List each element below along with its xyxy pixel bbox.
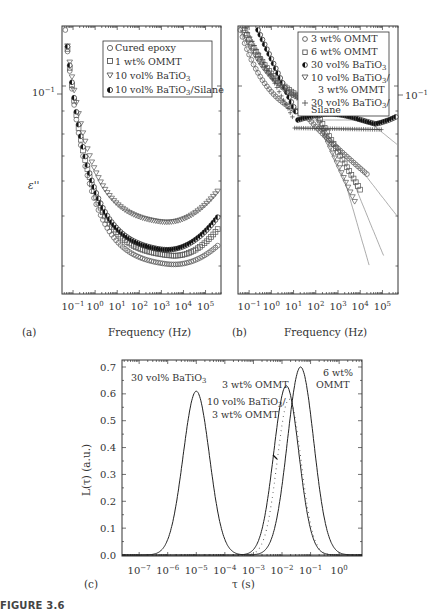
- legend-a-item-0: Cured epoxy: [115, 42, 176, 53]
- panel-a-x-tick-labels: 10−1100101102103104105: [62, 300, 215, 312]
- panel-b-point-2: [267, 52, 272, 57]
- panel-b-point-2: [291, 104, 296, 109]
- panel-b-x-tick-label: 105: [374, 300, 391, 312]
- annotation-6wt-ommt: 6 wt%: [323, 367, 353, 378]
- panel-a-point-2: [93, 171, 99, 176]
- panel-c: 10−710−610−510−410−310−210−1100 0.00.10.…: [80, 360, 362, 590]
- annotation-6wt-ommt-line2: OMMT: [316, 379, 350, 390]
- panel-a-x-tick-label: 103: [153, 300, 170, 312]
- panel-a-point-3: [89, 178, 94, 183]
- panel-b-point-2: [262, 42, 267, 47]
- panel-b-point-3: [350, 195, 356, 200]
- panel-b-point-2: [269, 56, 274, 61]
- panel-b-x-tick-label: 10−1: [238, 300, 261, 312]
- panel-a-point-3: [215, 215, 220, 220]
- panel-c-x-axis-label: τ (s): [232, 578, 255, 590]
- panel-a-point-0: [63, 28, 68, 33]
- panel-b-point-4: [275, 85, 279, 89]
- panel-c-y-tick-label: 0.1: [100, 523, 116, 534]
- annotation-30vol-batio3: 30 vol% BaTiO3: [131, 372, 207, 385]
- panel-b-point-4: [379, 127, 383, 131]
- panel-b-x-axis-label: Frequency (Hz): [284, 326, 367, 338]
- panel-a-point-0: [67, 69, 72, 74]
- legend-b-item-0: 3 wt% OMMT: [311, 33, 378, 44]
- panel-c-x-tick-label: 10−3: [242, 564, 265, 576]
- panel-c-y-tick-label: 0.6: [100, 388, 116, 399]
- panel-c-curve-1: [122, 399, 362, 555]
- panel-c-x-tick-label: 10−7: [128, 564, 151, 576]
- legend-b-item-4-line2: Silane: [311, 104, 341, 115]
- panel-c-tag: (c): [84, 578, 98, 590]
- panel-c-y-tick-label: 0.7: [100, 362, 116, 373]
- panel-b-point-2: [276, 71, 281, 76]
- panel-a-point-2: [96, 176, 102, 181]
- panel-a-point-3: [87, 171, 92, 176]
- panel-b-point-2: [256, 28, 261, 33]
- panel-b: 10−1100101102103104105 10−1 Frequency (H…: [232, 25, 428, 338]
- panel-c-x-tick-label: 10−5: [185, 564, 208, 576]
- panel-b-point-2: [289, 100, 294, 105]
- panel-b-point-2: [293, 109, 298, 114]
- panel-a-point-2: [91, 166, 97, 171]
- panel-a: 10−1100101102103104105 10−1 ε'' Frequenc…: [22, 26, 224, 338]
- panel-b-x-tick-label: 102: [307, 300, 324, 312]
- panel-a-ytick-label: 10−1: [32, 86, 55, 98]
- panel-c-y-axis-label: L(τ) (a.u.): [80, 444, 92, 496]
- panel-a-point-3: [76, 122, 81, 127]
- panel-b-point-2: [260, 37, 265, 42]
- panel-a-point-0: [74, 117, 79, 122]
- panel-b-point-2: [278, 76, 283, 81]
- panel-c-x-tick-label: 10−2: [270, 564, 293, 576]
- figure-canvas: 10−1100101102103104105 10−1 ε'' Frequenc…: [0, 0, 446, 615]
- legend-a-item-1: 1 wt% OMMT: [115, 56, 182, 67]
- panel-b-x-tick-labels: 10−1100101102103104105: [238, 300, 391, 312]
- panel-c-y-tick-label: 0.5: [100, 415, 116, 426]
- panel-b-point-2: [393, 115, 398, 120]
- panel-a-point-3: [78, 134, 83, 139]
- panel-c-y-tick-labels: 0.00.10.20.30.40.50.60.7: [100, 362, 116, 561]
- panel-a-x-axis-label: Frequency (Hz): [108, 326, 191, 338]
- panel-b-legend: 3 wt% OMMT 6 wt% OMMT 30 vol% BaTiO3 10 …: [298, 32, 391, 116]
- panel-a-x-tick-label: 10−1: [62, 300, 85, 312]
- panel-a-x-tick-label: 101: [109, 300, 126, 312]
- panel-b-point-2: [258, 32, 263, 37]
- annotation-3wt-ommt: 3 wt% OMMT: [222, 379, 289, 390]
- panel-c-y-tick-label: 0.4: [100, 442, 116, 453]
- panel-a-x-tick-label: 105: [197, 300, 214, 312]
- panel-a-y-axis-label: ε'': [28, 179, 39, 191]
- panel-a-legend: Cured epoxy 1 wt% OMMT 10 vol% BaTiO3 10…: [103, 41, 224, 97]
- panel-b-point-3: [352, 199, 358, 204]
- annotation-10vol-batio3-3wt-ommt: 10 vol% BaTiO3/: [207, 396, 287, 409]
- legend-b-item-1: 6 wt% OMMT: [311, 46, 378, 57]
- annotation-10vol-batio3-3wt-ommt-line2: 3 wt% OMMT: [212, 409, 279, 420]
- panel-a-point-3: [67, 63, 72, 68]
- panel-c-x-tick-labels: 10−710−610−510−410−310−210−1100: [128, 564, 348, 576]
- panel-a-x-tick-label: 102: [131, 300, 148, 312]
- panel-c-x-tick-label: 10−1: [299, 564, 322, 576]
- panel-a-point-3: [96, 196, 101, 201]
- panel-b-x-tick-label: 101: [285, 300, 302, 312]
- panel-b-x-tick-label: 100: [263, 300, 280, 312]
- panel-b-point-4: [277, 90, 281, 94]
- panel-a-point-3: [83, 154, 88, 159]
- panel-a-x-tick-label: 104: [175, 300, 193, 312]
- panel-b-tag: (b): [232, 326, 247, 338]
- panel-a-point-3: [70, 80, 75, 85]
- panel-b-point-2: [273, 66, 278, 71]
- panel-c-x-tick-label: 10−6: [156, 564, 180, 576]
- panel-a-x-tick-label: 100: [87, 300, 104, 312]
- panel-b-point-2: [271, 61, 276, 66]
- panel-a-point-2: [89, 160, 95, 165]
- panel-a-point-3: [94, 191, 99, 196]
- legend-b-item-3-line2: 3 wt% OMMT: [318, 84, 385, 95]
- panel-b-x-tick-label: 104: [352, 300, 370, 312]
- panel-b-point-2: [264, 47, 269, 52]
- panel-a-point-3: [72, 95, 77, 100]
- panel-a-point-3: [85, 163, 90, 168]
- panel-c-y-tick-label: 0.3: [100, 469, 116, 480]
- panel-b-x-tick-label: 103: [329, 300, 346, 312]
- panel-a-point-3: [74, 109, 79, 114]
- panel-a-point-3: [92, 185, 97, 190]
- panel-b-ytick-label: 10−1: [405, 89, 428, 101]
- panel-b-point-4: [290, 115, 294, 119]
